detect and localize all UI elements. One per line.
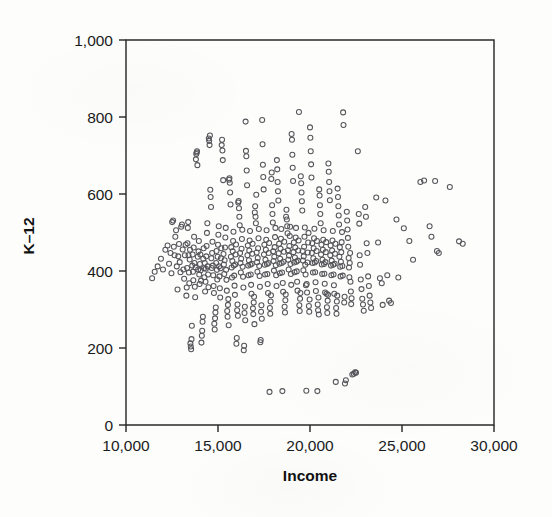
data-point [307, 297, 312, 302]
data-point [333, 241, 338, 246]
data-point [213, 316, 218, 321]
data-point [327, 189, 332, 194]
data-point [224, 288, 229, 293]
data-point [243, 119, 248, 124]
data-point [236, 206, 241, 211]
data-point [260, 162, 265, 167]
data-point [235, 308, 240, 313]
data-point [209, 205, 214, 210]
data-point [313, 289, 318, 294]
y-tick-label: 800 [87, 109, 113, 126]
data-point [265, 282, 270, 287]
data-point [223, 235, 228, 240]
data-point [171, 244, 176, 249]
data-point [337, 222, 342, 227]
data-point [360, 296, 365, 301]
data-point [185, 225, 190, 230]
data-point [447, 185, 452, 190]
data-point [394, 217, 399, 222]
data-point [396, 275, 401, 280]
y-axis-title: K–12 [20, 217, 37, 254]
data-point [221, 252, 226, 257]
data-point [277, 241, 282, 246]
data-point [260, 118, 265, 123]
data-point [224, 267, 229, 272]
data-points-layer [150, 110, 466, 395]
data-point [220, 158, 225, 163]
data-point [273, 225, 278, 230]
data-point [305, 290, 310, 295]
data-point [200, 328, 205, 333]
data-point [379, 281, 384, 286]
y-tick-label: 0 [104, 417, 113, 434]
data-point [260, 142, 265, 147]
data-point [233, 262, 238, 267]
data-point [325, 298, 330, 303]
x-tick-label: 20,000 [286, 437, 334, 454]
data-point [251, 300, 256, 305]
data-point [152, 269, 157, 274]
data-point [357, 253, 362, 258]
data-point [356, 212, 361, 217]
data-point [363, 205, 368, 210]
y-axis-tick-marks [119, 40, 126, 425]
data-point [240, 227, 245, 232]
y-tick-label: 200 [87, 340, 113, 357]
data-point [341, 110, 346, 115]
data-point [315, 389, 320, 394]
data-point [322, 281, 327, 286]
data-point [293, 235, 298, 240]
data-point [342, 294, 347, 299]
data-point [383, 198, 388, 203]
data-point [253, 204, 258, 209]
data-point [242, 304, 247, 309]
data-point [243, 148, 248, 153]
data-point [211, 290, 216, 295]
data-point [358, 277, 363, 282]
data-point [274, 158, 279, 163]
data-point [366, 284, 371, 289]
data-point [220, 148, 225, 153]
data-point [204, 230, 209, 235]
data-point [180, 247, 185, 252]
data-point [315, 302, 320, 307]
data-point [295, 279, 300, 284]
data-point [297, 309, 302, 314]
data-point [312, 226, 317, 231]
data-point [349, 296, 354, 301]
data-point [219, 143, 224, 148]
data-point [214, 248, 219, 253]
data-point [407, 238, 412, 243]
data-point [250, 306, 255, 311]
data-point [200, 314, 205, 319]
data-point [433, 178, 438, 183]
data-point [276, 198, 281, 203]
plot-frame [126, 40, 494, 425]
data-point [306, 304, 311, 309]
data-point [289, 137, 294, 142]
data-point [316, 295, 321, 300]
data-point [334, 305, 339, 310]
data-point [270, 220, 275, 225]
data-point [401, 226, 406, 231]
data-point [205, 221, 210, 226]
data-point [268, 299, 273, 304]
data-point [275, 189, 280, 194]
data-point [213, 310, 218, 315]
data-point [326, 169, 331, 174]
data-point [330, 238, 335, 243]
data-point [247, 248, 252, 253]
data-point [264, 228, 269, 233]
data-point [216, 232, 221, 237]
data-point [291, 240, 296, 245]
data-point [343, 378, 348, 383]
data-point [225, 302, 230, 307]
x-axis-tick-marks [126, 425, 494, 432]
data-point [196, 238, 201, 243]
data-point [174, 228, 179, 233]
data-point [298, 174, 303, 179]
data-point [232, 283, 237, 288]
data-point [267, 240, 272, 245]
data-point [186, 220, 191, 225]
data-point [345, 218, 350, 223]
